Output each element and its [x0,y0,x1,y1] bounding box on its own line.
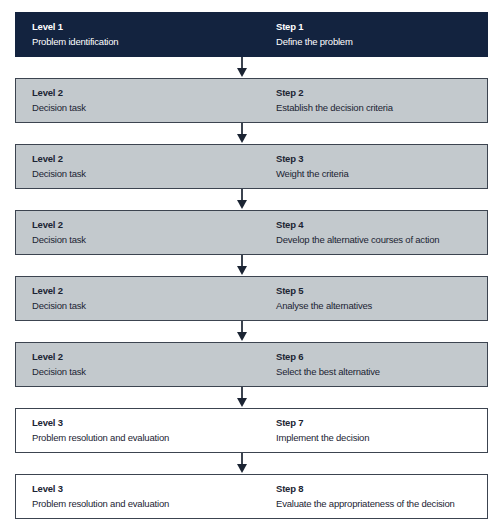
step-column: Step 2 Establish the decision criteria [276,86,393,115]
level-description: Decision task [32,298,86,313]
level-column: Level 2 Decision task [32,218,86,247]
level-title: Level 3 [32,416,169,430]
arrow-down-icon [15,189,488,210]
step-5-box: Level 2 Decision task Step 5 Analyse the… [15,276,488,321]
step-7-box: Level 3 Problem resolution and evaluatio… [15,408,488,453]
level-title: Level 2 [32,86,86,100]
level-column: Level 2 Decision task [32,152,86,181]
level-description: Problem identification [32,34,118,49]
arrow-down-icon [15,57,488,78]
step-description: Weight the criteria [276,166,349,181]
level-description: Decision task [32,364,86,379]
level-description: Problem resolution and evaluation [32,496,169,511]
step-description: Define the problem [276,34,353,49]
level-title: Level 3 [32,482,169,496]
arrow-down-icon [15,321,488,342]
step-column: Step 5 Analyse the alternatives [276,284,372,313]
step-title: Step 7 [276,416,369,430]
level-title: Level 2 [32,350,86,364]
step-title: Step 5 [276,284,372,298]
step-4-box: Level 2 Decision task Step 4 Develop the… [15,210,488,255]
step-title: Step 4 [276,218,439,232]
level-description: Decision task [32,232,86,247]
level-description: Decision task [32,166,86,181]
level-title: Level 2 [32,218,86,232]
step-description: Establish the decision criteria [276,100,393,115]
step-title: Step 2 [276,86,393,100]
level-description: Decision task [32,100,86,115]
step-title: Step 3 [276,152,349,166]
level-column: Level 2 Decision task [32,284,86,313]
arrow-down-icon [15,255,488,276]
step-description: Evaluate the appropriateness of the deci… [276,496,455,511]
level-description: Problem resolution and evaluation [32,430,169,445]
step-column: Step 7 Implement the decision [276,416,369,445]
level-title: Level 2 [32,284,86,298]
level-column: Level 3 Problem resolution and evaluatio… [32,416,169,445]
step-8-box: Level 3 Problem resolution and evaluatio… [15,474,488,519]
step-description: Implement the decision [276,430,369,445]
level-column: Level 1 Problem identification [32,20,118,49]
step-2-box: Level 2 Decision task Step 2 Establish t… [15,78,488,123]
step-title: Step 6 [276,350,380,364]
decision-making-flowchart: Level 1 Problem identification Step 1 De… [15,12,488,519]
level-column: Level 2 Decision task [32,86,86,115]
step-description: Analyse the alternatives [276,298,372,313]
step-description: Develop the alternative courses of actio… [276,232,439,247]
step-title: Step 8 [276,482,455,496]
level-column: Level 2 Decision task [32,350,86,379]
step-column: Step 6 Select the best alternative [276,350,380,379]
step-column: Step 4 Develop the alternative courses o… [276,218,439,247]
step-3-box: Level 2 Decision task Step 3 Weight the … [15,144,488,189]
arrow-down-icon [15,387,488,408]
step-title: Step 1 [276,20,353,34]
arrow-down-icon [15,123,488,144]
step-column: Step 8 Evaluate the appropriateness of t… [276,482,455,511]
step-description: Select the best alternative [276,364,380,379]
step-6-box: Level 2 Decision task Step 6 Select the … [15,342,488,387]
arrow-down-icon [15,453,488,474]
step-1-box: Level 1 Problem identification Step 1 De… [15,12,488,57]
level-column: Level 3 Problem resolution and evaluatio… [32,482,169,511]
step-column: Step 3 Weight the criteria [276,152,349,181]
level-title: Level 1 [32,20,118,34]
step-column: Step 1 Define the problem [276,20,353,49]
level-title: Level 2 [32,152,86,166]
